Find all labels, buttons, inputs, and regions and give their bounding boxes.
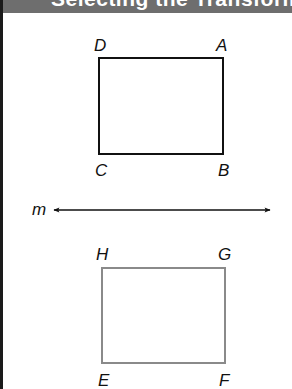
vertex-label-a: A: [215, 36, 227, 55]
vertex-label-h: H: [96, 245, 109, 264]
rectangle-abcd: [99, 58, 223, 154]
vertex-label-g: G: [218, 245, 231, 264]
rectangle-efgh: [102, 268, 225, 363]
figure-frame: Selecting the Transformation D A C B m H…: [0, 0, 292, 389]
vertex-label-d: D: [94, 36, 106, 55]
vertex-label-f: F: [219, 371, 231, 389]
vertex-label-e: E: [98, 371, 110, 389]
vertex-label-c: C: [95, 161, 108, 180]
vertex-label-b: B: [218, 161, 229, 180]
line-label-m: m: [32, 200, 46, 219]
reflection-diagram: D A C B m H G E F: [0, 0, 292, 389]
